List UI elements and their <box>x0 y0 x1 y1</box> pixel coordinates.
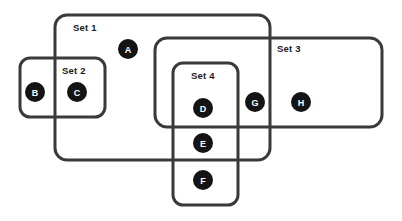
element-node-label: C <box>74 88 81 98</box>
set-labels-group: Set 1 Set 2 Set 3 Set 4 <box>62 22 301 81</box>
set-label-set1: Set 1 <box>73 22 97 33</box>
set-label-set4: Set 4 <box>191 70 215 81</box>
element-node-label: H <box>298 98 305 108</box>
element-node-label: F <box>200 176 206 186</box>
set-diagram-svg: Set 1 Set 2 Set 3 Set 4 ABCDEFGH <box>0 0 402 221</box>
element-node-label: D <box>200 104 207 114</box>
element-node-label: B <box>32 88 39 98</box>
element-node-label: G <box>251 98 258 108</box>
element-nodes-group: ABCDEFGH <box>25 39 311 190</box>
element-node-f[interactable]: F <box>193 170 213 190</box>
element-node-b[interactable]: B <box>25 82 45 102</box>
element-node-d[interactable]: D <box>193 98 213 118</box>
set-diagram-canvas: Set 1 Set 2 Set 3 Set 4 ABCDEFGH <box>0 0 402 221</box>
set-label-set3: Set 3 <box>277 43 301 54</box>
element-node-e[interactable]: E <box>193 133 213 153</box>
element-node-c[interactable]: C <box>67 82 87 102</box>
element-node-label: E <box>200 139 206 149</box>
element-node-g[interactable]: G <box>245 92 265 112</box>
element-node-a[interactable]: A <box>118 39 138 59</box>
element-node-h[interactable]: H <box>291 92 311 112</box>
set-label-set2: Set 2 <box>62 65 86 76</box>
element-node-label: A <box>125 45 132 55</box>
